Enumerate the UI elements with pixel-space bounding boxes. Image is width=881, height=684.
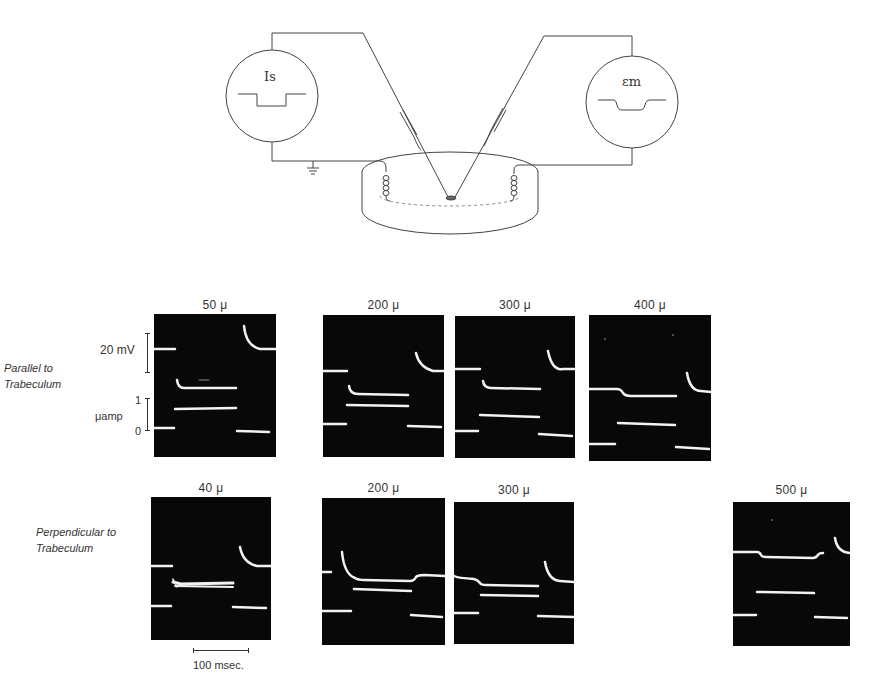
- voltage-calibration-bar: [147, 333, 148, 373]
- recorded-potential-icon: [598, 100, 666, 110]
- stimulator-top-wire: [272, 33, 448, 197]
- time-scale-label: 100 msec.: [193, 659, 244, 671]
- oscilloscope-trace-panel: [323, 315, 444, 457]
- recorder-top-wire: [455, 36, 632, 197]
- ground-icon: [307, 161, 319, 174]
- stimulating-electrode-icon: [400, 110, 421, 150]
- time-scale-bar: [193, 650, 249, 651]
- figure: Is εm Parallel to Trabeculum 20 mV 1 μam…: [0, 0, 881, 684]
- oscilloscope-trace-panel: [151, 497, 271, 640]
- oscilloscope-trace-panel: [455, 316, 575, 458]
- current-calibration-unit: μamp: [95, 410, 123, 422]
- oscilloscope-trace-panel: [589, 315, 711, 461]
- panel-label: 200 μ: [323, 298, 444, 312]
- current-calibration-bar: [147, 398, 148, 431]
- oscilloscope-trace-panel: [454, 502, 574, 644]
- panel-label: 200 μ: [322, 481, 445, 495]
- stimulator-circle: [226, 50, 318, 142]
- panel-label: 300 μ: [455, 298, 575, 312]
- tissue-preparation: [446, 196, 456, 200]
- panel-label: 500 μ: [733, 483, 850, 497]
- tissue-bath-icon: [362, 152, 538, 234]
- current-calibration-top: 1: [135, 394, 141, 406]
- panel-label: 50 μ: [154, 298, 276, 312]
- panel-label: 40 μ: [151, 481, 271, 495]
- row-label-parallel: Parallel to Trabeculum: [4, 360, 61, 392]
- oscilloscope-trace-panel: [154, 314, 276, 457]
- voltage-calibration-label: 20 mV: [100, 343, 135, 357]
- recorder-label: εm: [622, 74, 641, 89]
- row-label-perpendicular: Perpendicular to Trabeculum: [36, 524, 116, 556]
- oscilloscope-trace-panel: [322, 498, 445, 645]
- recorder-bottom-wire: [520, 148, 632, 165]
- current-calibration-zero: 0: [135, 425, 141, 437]
- oscilloscope-trace-panel: [733, 502, 850, 646]
- stimulus-pulse-icon: [238, 94, 306, 106]
- panel-label: 400 μ: [589, 298, 711, 312]
- right-coil-electrode-icon: [510, 176, 517, 202]
- panel-label: 300 μ: [454, 483, 574, 497]
- circuit-diagram: Is εm: [0, 0, 881, 250]
- stimulator-bottom-wire: [272, 142, 380, 161]
- recording-electrode-icon: [484, 108, 506, 146]
- left-coil-electrode-icon: [383, 176, 390, 202]
- stimulator-label: Is: [264, 69, 276, 84]
- recorder-circle: [586, 56, 678, 148]
